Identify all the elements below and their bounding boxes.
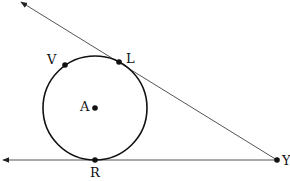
diagram-canvas: V L A R Y (0, 0, 290, 181)
label-Y: Y (281, 153, 290, 168)
point-V (62, 62, 68, 68)
point-Y (274, 157, 280, 163)
label-A: A (79, 99, 90, 114)
label-L: L (126, 51, 135, 66)
label-V: V (46, 52, 57, 67)
point-L (116, 59, 122, 65)
geometry-diagram: V L A R Y (0, 0, 290, 181)
point-R (92, 157, 98, 163)
point-A (92, 105, 98, 111)
label-R: R (90, 165, 101, 180)
tangent-line-YL (21, 2, 277, 160)
